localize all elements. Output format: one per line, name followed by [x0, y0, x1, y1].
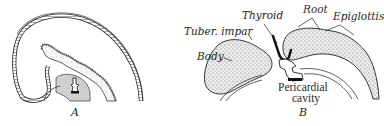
panel-label-a: A	[71, 107, 79, 118]
label-root: Root	[303, 4, 328, 15]
label-tuber-impar: Tuber. impar	[184, 26, 253, 37]
panel-a-drawing	[14, 13, 143, 101]
label-thyroid: Thyroid	[242, 10, 283, 21]
label-epiglottis: Epiglottis	[333, 11, 384, 22]
label-cavity: cavity	[292, 93, 320, 105]
label-body: Body	[197, 51, 224, 62]
panel-label-b: B	[299, 107, 307, 118]
